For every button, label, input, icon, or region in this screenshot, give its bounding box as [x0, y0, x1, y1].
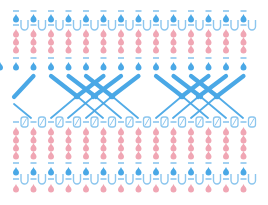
stitch-cell [223, 37, 229, 46]
slip-u-icon [161, 20, 168, 30]
slip-u-icon [231, 20, 238, 30]
knit-drop-pink-icon [206, 127, 212, 136]
slip-u-icon [109, 174, 116, 184]
slip-u-icon [249, 174, 256, 184]
stitch-cell [13, 62, 19, 71]
stitch-cell [83, 37, 89, 46]
stitch-cell [101, 37, 107, 46]
stitch-cell [66, 45, 72, 54]
knit-drop-pink-icon [153, 143, 159, 152]
stitch-cell [66, 184, 72, 193]
stitch-cell [223, 174, 238, 184]
stitch-cell [171, 14, 177, 23]
stitch-cell [241, 37, 247, 46]
knit-drop-pink-icon [136, 29, 142, 38]
stitch-cell [48, 37, 54, 46]
stitch-cell [188, 167, 194, 176]
knit-drop-pink-icon [206, 135, 212, 144]
stitch-cell [101, 174, 116, 184]
stitch-cell [66, 14, 72, 23]
knit-drop-icon [66, 14, 72, 23]
box-slash-icon [180, 119, 184, 126]
knit-drop-icon [171, 167, 177, 176]
stitch-cell [83, 117, 98, 127]
knit-drop-pink-icon [136, 37, 142, 46]
slip-u-icon [126, 174, 133, 184]
stitch-chart-canvas [0, 0, 268, 205]
stitch-cell [188, 135, 194, 144]
knit-drop-pink-icon [48, 29, 54, 38]
stitch-cell [241, 135, 247, 144]
knit-drop-pink-icon [48, 143, 54, 152]
stitch-cell [136, 29, 142, 38]
stitch-cell [188, 174, 203, 184]
stitch-cell [206, 135, 212, 144]
stitch-cell [153, 184, 159, 193]
stitch-cell [153, 167, 159, 176]
knit-drop-pink-icon [118, 45, 124, 54]
knit-drop-pink-icon [223, 37, 229, 46]
knit-drop-pink-icon [31, 29, 37, 38]
stitch-cell [31, 127, 37, 136]
knit-drop-pink-icon [48, 184, 54, 193]
slip-u-icon [91, 20, 98, 30]
slip-u-icon [74, 20, 81, 30]
knit-drop-icon [153, 62, 159, 71]
stitch-cell [31, 135, 37, 144]
stitch-cell [31, 37, 37, 46]
knit-drop-pink-icon [188, 143, 194, 152]
knit-drop-pink-icon [171, 143, 177, 152]
stitch-cell [13, 143, 19, 152]
knit-drop-pink-icon [136, 151, 142, 160]
stitch-cell [241, 151, 247, 160]
stitch-cell [223, 45, 229, 54]
box-slash-icon [93, 119, 97, 126]
stitch-cell [206, 184, 212, 193]
knit-drop-pink-icon [83, 151, 89, 160]
knit-drop-pink-icon [31, 135, 37, 144]
knit-drop-icon [31, 62, 37, 71]
stitch-cell [31, 14, 37, 23]
stitch-cell [101, 151, 107, 160]
knit-drop-pink-icon [31, 151, 37, 160]
stitch-cell [83, 135, 89, 144]
stitch-cell [66, 62, 72, 71]
stitch-cell [206, 143, 212, 152]
knit-drop-icon [153, 14, 159, 23]
box-slash-icon [250, 119, 254, 126]
box-slash-icon [233, 119, 237, 126]
stitch-cell [153, 151, 159, 160]
knit-drop-pink-icon [118, 29, 124, 38]
stitch-cell [171, 174, 186, 184]
stitch-cell [101, 167, 107, 176]
stitch-cell [118, 29, 124, 38]
stitch-cell [13, 167, 19, 176]
knit-drop-pink-icon [171, 135, 177, 144]
knit-drop-pink-icon [153, 127, 159, 136]
box-slash-icon [163, 119, 167, 126]
box-slash-icon [145, 119, 149, 126]
stitch-cell [153, 174, 168, 184]
stitch-cell [206, 62, 212, 71]
stitch-cell [188, 117, 203, 127]
knit-drop-pink-icon [241, 184, 247, 193]
stitch-cell [241, 62, 247, 71]
knit-drop-icon [13, 62, 19, 71]
stitch-cell [223, 184, 229, 193]
knit-drop-pink-icon [101, 45, 107, 54]
knit-drop-pink-icon [101, 29, 107, 38]
knit-drop-pink-icon [188, 184, 194, 193]
knit-drop-pink-icon [153, 135, 159, 144]
knit-drop-icon [136, 167, 142, 176]
slip-u-icon [56, 174, 63, 184]
stitch-cell [241, 167, 247, 176]
knit-drop-pink-icon [66, 143, 72, 152]
knit-drop-pink-icon [223, 45, 229, 54]
stitch-cell [136, 143, 142, 152]
slip-u-icon [21, 174, 28, 184]
stitch-cell [66, 37, 72, 46]
stitch-cell [101, 184, 107, 193]
stitch-cell [171, 143, 177, 152]
knit-drop-pink-icon [83, 184, 89, 193]
knit-drop-pink-icon [206, 29, 212, 38]
